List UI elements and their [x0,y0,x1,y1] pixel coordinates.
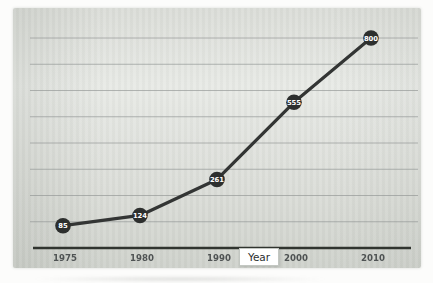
x-axis-title: Year [248,251,270,263]
data-point-label: 800 [364,35,378,43]
x-tick-label: 1990 [207,253,231,263]
x-tick-label: 1975 [53,253,77,263]
data-series-line [63,38,371,226]
line-chart: 8512426155580019751980199020002010 [0,0,433,283]
x-tick-label: 1980 [130,253,154,263]
data-point-label: 85 [58,222,68,230]
x-tick-label: 2000 [284,253,308,263]
x-tick-label: 2010 [361,253,385,263]
x-axis-title-box: Year [239,248,279,266]
scan-shadow [30,276,330,282]
data-point-label: 124 [133,212,147,220]
data-point-label: 555 [287,99,301,107]
data-point-label: 261 [210,176,224,184]
scanned-line-chart-image: 8512426155580019751980199020002010 Year [0,0,433,283]
